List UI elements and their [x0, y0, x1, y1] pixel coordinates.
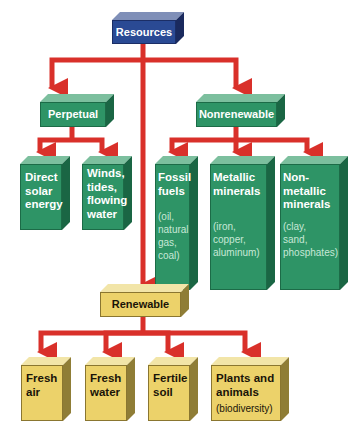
node-label: Fossil fuels [158, 171, 191, 198]
node-resources: Resources [112, 20, 176, 44]
resource-classification-diagram: Resources Perpetual Nonrenewable Direct … [0, 0, 360, 437]
node-nonmetallic-minerals: Non- metallic minerals (clay, sand, phos… [280, 164, 340, 290]
node-fertile-soil: Fertile soil [148, 365, 190, 421]
node-label: Non- metallic minerals [283, 171, 330, 212]
node-examples: (iron, copper, aluminum) [213, 220, 260, 259]
node-label: Perpetual [40, 102, 106, 127]
node-fossil-fuels: Fossil fuels (oil, natural gas, coal) [155, 164, 190, 290]
node-examples: (oil, natural gas, coal) [158, 210, 189, 262]
node-fresh-water: Fresh water [85, 365, 127, 421]
node-metallic-minerals: Metallic minerals (iron, copper, aluminu… [210, 164, 267, 290]
node-label: Resources [112, 20, 176, 44]
node-label: Renewable [100, 292, 181, 317]
node-perpetual: Perpetual [40, 102, 106, 127]
node-nonrenewable: Nonrenewable [196, 102, 277, 127]
node-label: Nonrenewable [196, 102, 277, 127]
node-fresh-air: Fresh air [21, 365, 63, 421]
node-plants-and-animals: Plants and animals (biodiversity) [211, 365, 281, 421]
node-label: Fresh water [90, 372, 121, 399]
node-direct-solar-energy: Direct solar energy [20, 164, 62, 230]
node-label: Fertile soil [153, 372, 188, 399]
node-label: Winds, tides, flowing water [87, 167, 127, 221]
node-label: Plants and animals [216, 372, 274, 399]
node-label: Metallic minerals [213, 171, 260, 198]
node-renewable: Renewable [100, 292, 181, 317]
arrow-to-nonrenewable [143, 60, 236, 88]
arrow-to-perpetual [52, 60, 143, 88]
node-winds-tides-flowing-water: Winds, tides, flowing water [82, 164, 124, 230]
node-examples: (biodiversity) [216, 402, 273, 415]
node-label: Direct solar energy [25, 171, 63, 212]
node-examples: (clay, sand, phosphates) [283, 220, 338, 259]
node-label: Fresh air [26, 372, 57, 399]
